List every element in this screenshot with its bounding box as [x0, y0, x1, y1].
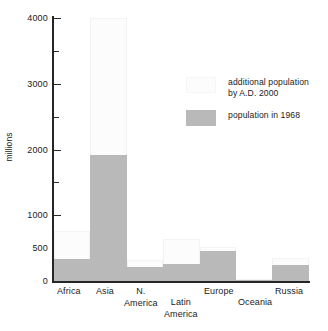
- legend-label-line: population in 1968: [228, 110, 300, 121]
- bar-segment-1968: [90, 155, 126, 281]
- x-tick-label-line: N.: [124, 286, 158, 298]
- y-tick-label-text: 2000: [27, 145, 48, 155]
- bar-chart-figure: millions 05001000200030004000 AfricaAsia…: [0, 0, 328, 331]
- x-tick-label-line: Latin: [164, 297, 198, 309]
- x-tick-label-line: Russia: [275, 286, 303, 298]
- bar-segment-1968: [236, 280, 272, 281]
- bar-segment-1968: [200, 251, 236, 281]
- y-tick-label-text: 4000: [27, 13, 48, 23]
- legend-label: additional populationby A.D. 2000: [228, 77, 309, 99]
- x-tick-label-africa: Africa: [57, 286, 81, 298]
- y-tick-label-3000: 3000: [0, 79, 48, 89]
- y-tick-label-4000: 4000: [0, 13, 48, 23]
- x-tick-label-oceania: Oceania: [238, 297, 272, 309]
- x-tick-label-line: Europe: [204, 286, 234, 298]
- x-axis-line: [52, 281, 310, 283]
- bar-group-oceania: [236, 18, 272, 281]
- bar-group-asia: [90, 18, 126, 281]
- x-tick-label-europe: Europe: [204, 286, 234, 298]
- bar-segment-1968: [127, 267, 163, 281]
- x-tick-label-latin-america: LatinAmerica: [164, 297, 198, 320]
- legend-label: population in 1968: [228, 110, 300, 121]
- x-tick-label-line: Oceania: [238, 297, 272, 309]
- x-tick-label-line: America: [164, 309, 198, 321]
- legend-label-line: by A.D. 2000: [228, 88, 309, 99]
- bar-segment-1968: [272, 265, 308, 281]
- bar-group-russia: [272, 18, 308, 281]
- y-tick-label-2000: 2000: [0, 145, 48, 155]
- x-tick-label-line: Asia: [96, 286, 114, 298]
- bar-segment-1968: [54, 259, 90, 281]
- x-tick-label-line: Africa: [57, 286, 81, 298]
- y-tick-label-text: 0: [43, 276, 48, 286]
- y-axis-title: millions: [4, 42, 14, 112]
- plot-area: [52, 18, 312, 281]
- y-tick-label-text: 500: [32, 243, 48, 253]
- legend-item-population-1968: population in 1968: [186, 110, 300, 126]
- legend-item-additional-population: additional populationby A.D. 2000: [186, 77, 309, 99]
- x-tick-label-russia: Russia: [275, 286, 303, 298]
- y-tick-label-text: 1000: [27, 210, 48, 220]
- legend-label-line: additional population: [228, 77, 309, 88]
- bar-group-africa: [54, 18, 90, 281]
- bar-segment-1968: [163, 264, 199, 281]
- base-swatch: [186, 110, 216, 126]
- bar-group-europe: [200, 18, 236, 281]
- bar-group-n-america: [127, 18, 163, 281]
- y-tick-label-500: 500: [0, 243, 48, 253]
- y-tick-0: [54, 281, 61, 282]
- y-tick-label-1000: 1000: [0, 210, 48, 220]
- x-tick-label-asia: Asia: [96, 286, 114, 298]
- y-tick-label-text: 3000: [27, 79, 48, 89]
- additional-swatch: [186, 77, 216, 93]
- y-tick-label-0: 0: [0, 276, 48, 286]
- x-tick-label-n-america: N.America: [124, 286, 158, 309]
- bar-group-latin-america: [163, 18, 199, 281]
- x-tick-label-line: America: [124, 298, 158, 310]
